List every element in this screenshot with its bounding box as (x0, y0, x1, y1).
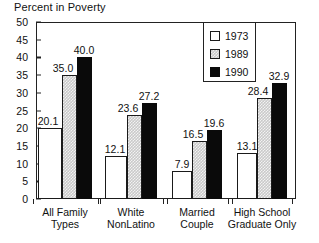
legend-swatch-icon (210, 67, 220, 77)
bar (172, 171, 192, 199)
legend-item-1973[interactable]: 1973 (210, 29, 248, 42)
bar-value-label: 27.2 (137, 91, 161, 102)
x-axis-tick-mark (167, 199, 168, 204)
legend-item-1990[interactable]: 1990 (210, 65, 248, 78)
bar (257, 98, 272, 199)
x-axis-group-label-line: Graduate Only (217, 218, 307, 230)
legend-item-label: 1989 (225, 49, 248, 59)
legend-item-1989[interactable]: 1989 (210, 47, 248, 60)
bar (38, 128, 62, 199)
x-axis-group-label-line: High School (217, 206, 307, 218)
chart-root: Percent in Poverty 50454035302520151050 … (0, 0, 319, 243)
bar-value-label: 20.1 (36, 116, 60, 127)
bar (105, 156, 127, 199)
bar (207, 130, 222, 199)
x-axis-tick-mark (292, 199, 293, 204)
bar (192, 141, 207, 199)
bar (77, 57, 92, 199)
x-axis-tick-mark (163, 199, 164, 204)
x-axis-tick-mark (228, 199, 229, 204)
bar (62, 75, 77, 199)
bar-value-label: 28.4 (246, 86, 270, 97)
bar-value-label: 32.9 (267, 71, 291, 82)
x-axis-tick-mark (33, 199, 34, 204)
bar-value-label: 19.6 (202, 118, 226, 129)
bar-value-label: 40.0 (72, 45, 96, 56)
bar (127, 115, 142, 199)
x-axis-tick-mark (232, 199, 233, 204)
legend-swatch-icon (210, 31, 220, 41)
bar-value-label: 12.1 (103, 144, 127, 155)
bar-value-label: 16.5 (181, 129, 205, 140)
bar (272, 83, 287, 199)
bar-value-label: 35.0 (51, 63, 75, 74)
legend-item-label: 1973 (225, 31, 248, 41)
bar-value-label: 13.1 (235, 141, 259, 152)
bar (237, 153, 257, 199)
x-axis-tick-mark (100, 199, 101, 204)
bar-value-label: 7.9 (170, 159, 194, 170)
bar (142, 103, 157, 199)
legend-swatch-icon (210, 49, 220, 59)
bar-value-label: 23.6 (116, 103, 140, 114)
x-axis-group-label: High SchoolGraduate Only (217, 206, 307, 230)
legend-item-label: 1990 (225, 67, 248, 77)
legend: 1973 1989 1990 (203, 22, 256, 82)
